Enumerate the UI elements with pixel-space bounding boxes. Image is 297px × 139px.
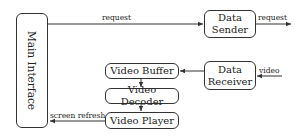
video-buffer-label: Video Buffer [110, 65, 173, 77]
data-sender-node: Data Sender [204, 10, 256, 38]
edge-label-request-main: request [102, 14, 131, 22]
data-receiver-node: Data Receiver [204, 61, 256, 90]
video-decoder-node: Video Decoder [105, 88, 179, 104]
data-receiver-label-line1: Data [218, 64, 242, 76]
data-sender-label-line1: Data [218, 12, 242, 24]
data-receiver-label-line2: Receiver [208, 76, 253, 88]
main-interface-label: Main Interface [26, 31, 38, 110]
main-interface-node: Main Interface [16, 13, 48, 128]
video-player-label: Video Player [110, 115, 174, 127]
edge-label-request-out: request [258, 14, 287, 22]
edge-label-video: video [259, 67, 279, 75]
data-sender-label-line2: Sender [212, 24, 248, 36]
video-player-node: Video Player [105, 112, 179, 129]
video-decoder-label: Video Decoder [106, 84, 178, 108]
video-buffer-node: Video Buffer [105, 63, 179, 79]
edge-label-screen-refresh: screen refresh [50, 112, 105, 120]
